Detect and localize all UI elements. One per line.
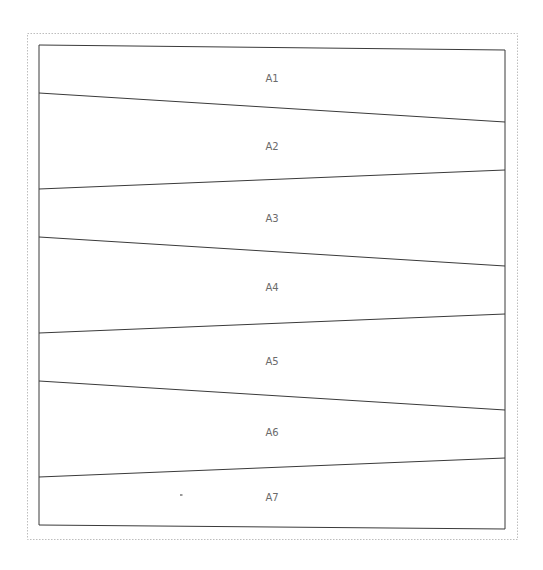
divider-line-5: [39, 381, 505, 410]
region-label-a4: A4: [265, 282, 278, 293]
divider-line-6: [39, 458, 505, 477]
region-label-a1: A1: [265, 73, 278, 84]
region-label-a2: A2: [265, 141, 278, 152]
divider-line-2: [39, 170, 505, 189]
region-labels: A1A2A3A4A5A6A7: [265, 73, 278, 503]
divider-line-1: [39, 93, 505, 122]
region-diagram: A1A2A3A4A5A6A7: [0, 0, 543, 570]
region-label-a7: A7: [265, 492, 278, 503]
divider-line-4: [39, 314, 505, 333]
region-label-a6: A6: [265, 427, 278, 438]
region-label-a3: A3: [265, 213, 278, 224]
divider-line-3: [39, 237, 505, 266]
region-label-a5: A5: [265, 356, 278, 367]
